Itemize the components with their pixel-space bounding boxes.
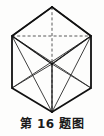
edge-center-to-upper-right (52, 36, 91, 64)
near-corner-edges (12, 36, 91, 112)
cube-diagram (0, 0, 104, 116)
figure-caption: 第 16 题图 (0, 114, 104, 134)
vertex-top (51, 6, 53, 8)
vertex-bottom (51, 111, 53, 113)
figure-container: 第 16 题图 (0, 0, 104, 136)
top-face-edges (12, 7, 91, 36)
vertex-center (51, 63, 53, 65)
edge-center-to-upper-left (12, 36, 52, 64)
